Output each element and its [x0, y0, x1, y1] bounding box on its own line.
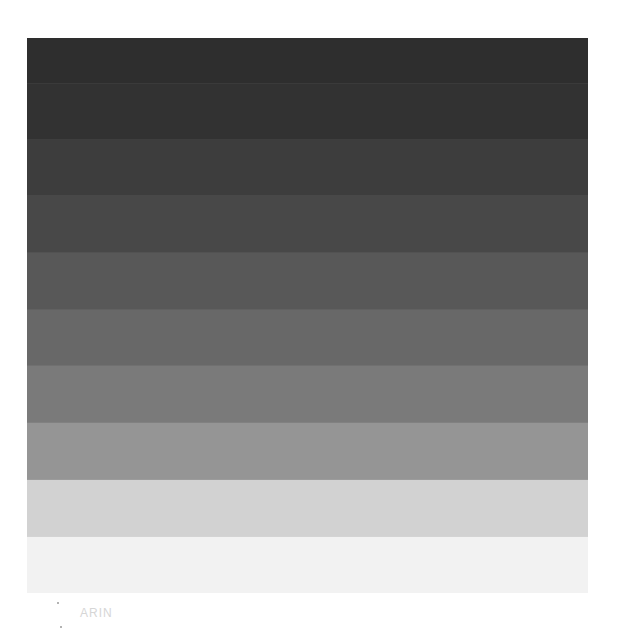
- gray-step-band: [27, 310, 588, 366]
- gray-step-band: [27, 84, 588, 140]
- gray-step-band: [27, 196, 588, 253]
- marker-dot: [57, 602, 59, 604]
- gray-step-band: [27, 38, 588, 84]
- gray-step-band: [27, 480, 588, 537]
- gray-step-band: [27, 423, 588, 480]
- gray-step-band: [27, 537, 588, 593]
- gray-step-band: [27, 140, 588, 196]
- marker-dot: [60, 626, 62, 628]
- grayscale-step-chart: [27, 38, 588, 593]
- gray-step-band: [27, 366, 588, 423]
- caption-text: ARIN: [80, 606, 113, 620]
- gray-step-band: [27, 253, 588, 310]
